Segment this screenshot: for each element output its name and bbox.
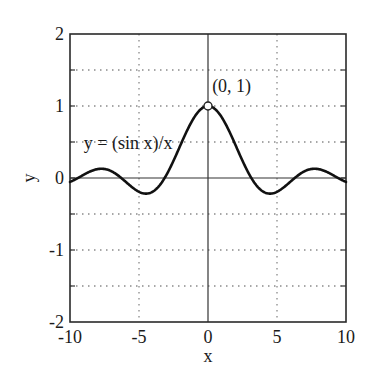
x-tick-label: 10	[337, 327, 355, 347]
y-tick-label: -2	[49, 312, 64, 332]
x-tick-label: -5	[132, 327, 147, 347]
x-tick-label: 0	[204, 327, 213, 347]
peak-point-marker	[204, 102, 212, 110]
y-tick-labels: -2-1012	[49, 24, 64, 332]
x-tick-labels: -10-50510	[58, 327, 355, 347]
y-tick-label: -1	[49, 240, 64, 260]
sinc-chart: -10-50510 -2-1012 x y y = (sin x)/x (0, …	[0, 0, 373, 381]
y-tick-label: 1	[55, 96, 64, 116]
x-tick-label: 5	[273, 327, 282, 347]
peak-annotation: (0, 1)	[212, 76, 251, 97]
y-tick-label: 0	[55, 168, 64, 188]
x-axis-label: x	[204, 346, 213, 366]
function-annotation: y = (sin x)/x	[84, 133, 173, 154]
y-axis-label: y	[19, 174, 39, 183]
y-tick-label: 2	[55, 24, 64, 44]
zero-axes	[70, 34, 346, 322]
